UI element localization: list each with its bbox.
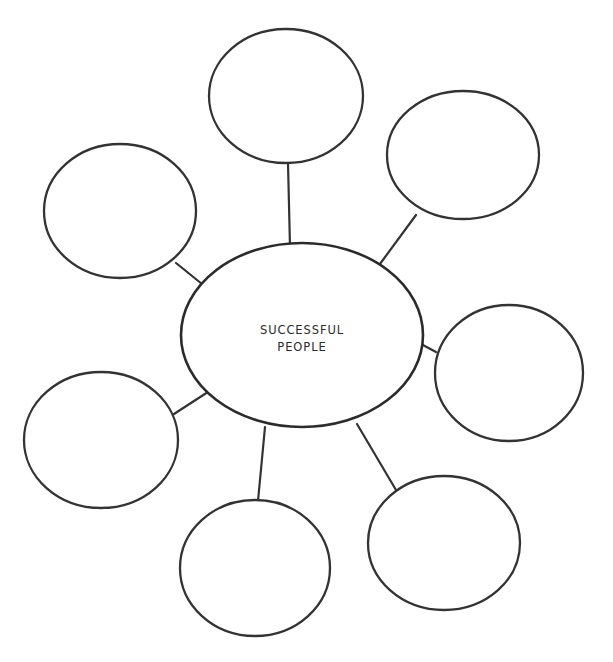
node-top[interactable] xyxy=(209,29,363,163)
node-bottom-left-shape[interactable] xyxy=(24,372,178,508)
center-oval-label-line-1: SUCCESSFUL xyxy=(260,323,344,337)
node-bottom-right-shape[interactable] xyxy=(368,476,520,610)
node-right[interactable] xyxy=(435,305,583,441)
node-bottom[interactable] xyxy=(180,500,330,636)
center-oval-label-line-2: PEOPLE xyxy=(277,340,326,354)
center-oval-group[interactable]: SUCCESSFUL PEOPLE xyxy=(181,243,423,427)
node-bottom-left[interactable] xyxy=(24,372,178,508)
node-left[interactable] xyxy=(44,144,196,278)
node-bottom-right[interactable] xyxy=(368,476,520,610)
node-left-shape[interactable] xyxy=(44,144,196,278)
diagram-canvas: SUCCESSFUL PEOPLE xyxy=(0,0,613,662)
web-organizer-diagram: SUCCESSFUL PEOPLE xyxy=(0,0,613,662)
node-top-shape[interactable] xyxy=(209,29,363,163)
node-top-right[interactable] xyxy=(387,91,539,219)
node-right-shape[interactable] xyxy=(435,305,583,441)
node-top-right-shape[interactable] xyxy=(387,91,539,219)
node-bottom-shape[interactable] xyxy=(180,500,330,636)
